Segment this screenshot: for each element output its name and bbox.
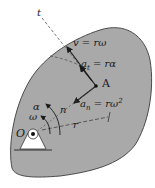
label-t: t	[37, 8, 41, 18]
an-superscript: 2	[118, 97, 122, 105]
label-omega: ω	[29, 112, 37, 122]
label-n: n	[60, 105, 66, 115]
label-velocity: v = rω	[73, 38, 106, 48]
label-r: r	[73, 120, 78, 130]
diagram-canvas	[0, 0, 155, 188]
rotation-diagram: t v = rω at = rα A an = rω2 α ω n r O	[0, 0, 155, 188]
at-eq: = rα	[90, 58, 116, 69]
pivot-pin	[31, 132, 35, 136]
label-o: O	[16, 128, 25, 139]
label-normal-accel: an = rω2	[80, 98, 123, 112]
velocity-eq: = rω	[79, 37, 107, 48]
an-eq: = rω	[90, 98, 118, 109]
label-point-a: A	[102, 78, 110, 89]
label-tangential-accel: at = rα	[81, 59, 116, 72]
point-a-dot	[94, 84, 98, 88]
